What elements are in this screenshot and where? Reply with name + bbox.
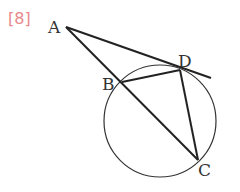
segment-dc bbox=[180, 70, 198, 160]
diagram-canvas: [8] A B D C bbox=[0, 0, 240, 192]
label-d: D bbox=[178, 51, 192, 71]
label-b: B bbox=[102, 74, 115, 94]
label-a: A bbox=[47, 17, 61, 37]
geometry-diagram: [8] A B D C bbox=[0, 0, 240, 192]
segment-bd bbox=[122, 70, 180, 82]
problem-number: [8] bbox=[8, 9, 31, 28]
secant-line-ac bbox=[66, 27, 198, 160]
label-c: C bbox=[198, 160, 211, 180]
